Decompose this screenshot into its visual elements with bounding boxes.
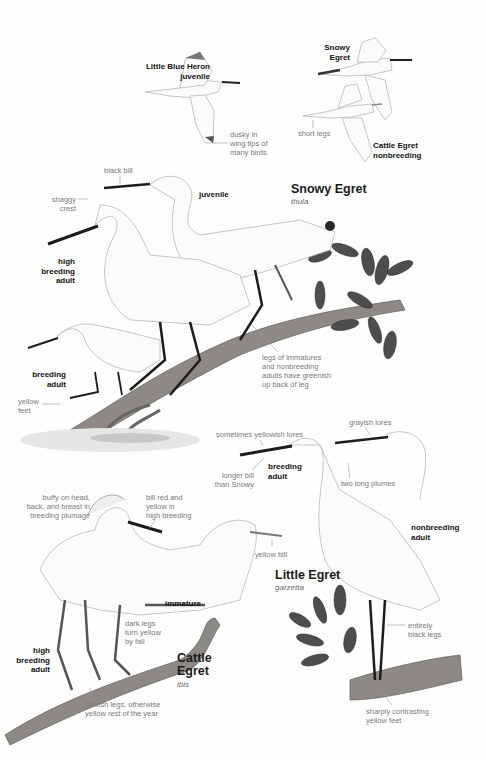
yellow-feet-note: yellow feet [18, 397, 39, 415]
yellow-bill-note: yellow bill [255, 550, 287, 559]
snowy-breeding-label: breeding adult [20, 370, 66, 389]
cattle-egret-species-name: Cattle Egret [177, 652, 217, 678]
grayish-lores-note: grayish lores [349, 418, 392, 427]
cattle-egret-subspecies: ibis [177, 680, 189, 689]
bird-illustrations [0, 0, 486, 760]
cattle-high-breeding-label: high breeding adult [5, 646, 50, 675]
little-egret-subspecies: garzetta [275, 583, 304, 592]
snowy-high-breeding-label: high breeding adult [30, 257, 75, 286]
cattle-immature-label: immature [165, 599, 201, 609]
short-legs-note: short legs [298, 129, 331, 138]
cattle-egret-flight-illustration [303, 84, 382, 162]
yellowish-lores-note: sometimes yellowish lores [216, 430, 303, 439]
greenish-legs-note: legs of immatures and nonbreeding adults… [262, 353, 331, 389]
black-legs-note: entirely black legs [408, 621, 441, 639]
contrasting-yellow-feet-note: sharply contrasting yellow feet [366, 707, 429, 725]
dark-legs-note: dark legs turn yellow by fall [125, 619, 161, 646]
little-blue-heron-age: juvenile [100, 72, 210, 82]
snowy-egret-subspecies: thula [291, 197, 308, 206]
little-egret-breeding-label: breeding adult [268, 462, 302, 481]
little-egret-nonbreeding-label: nonbreeding adult [411, 523, 459, 542]
field-guide-page: Little Blue Heron juvenile dusky in wing… [0, 0, 486, 760]
buffy-plumage-note: buffy on head, back, and breast in breed… [20, 493, 90, 520]
snowy-juvenile-label: juvenile [199, 190, 229, 200]
snowy-egret-flight-label: Snowy Egret [300, 43, 350, 62]
longer-bill-note: longer bill than Snowy [214, 471, 254, 489]
two-plumes-note: two long plumes [341, 479, 395, 488]
bill-red-yellow-note: bill red and yellow in high breeding [146, 493, 191, 520]
little-blue-heron-name: Little Blue Heron [100, 62, 210, 72]
black-bill-note: black bill [104, 166, 133, 175]
leader-lines [42, 120, 405, 705]
snowy-egret-species-name: Snowy Egret [291, 183, 367, 196]
little-egret-species-name: Little Egret [275, 569, 340, 582]
dusky-wingtips-note: dusky in wing tips of many birds [230, 130, 268, 157]
shaggy-crest-note: shaggy crest [40, 195, 76, 213]
little-blue-heron-label: Little Blue Heron juvenile [100, 62, 210, 81]
pinkish-legs-note: pinkish legs, otherwise yellow rest of t… [85, 700, 160, 718]
cattle-egret-flight-label: Cattle Egret nonbreeding [373, 141, 421, 160]
